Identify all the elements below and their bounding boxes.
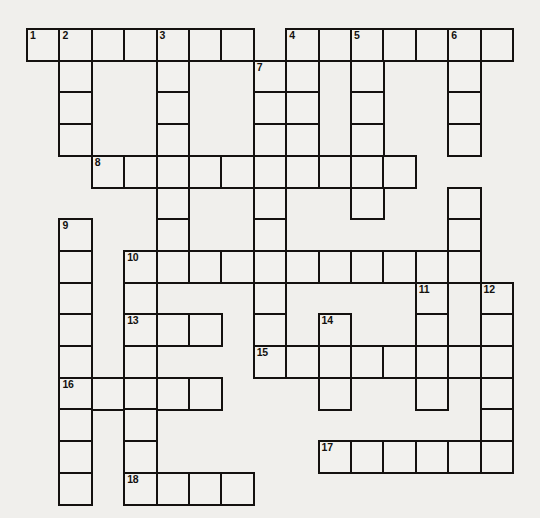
crossword-cell[interactable] <box>58 440 93 474</box>
crossword-cell[interactable]: 5 <box>350 28 385 62</box>
crossword-cell[interactable] <box>58 250 93 284</box>
crossword-cell[interactable] <box>285 60 320 94</box>
crossword-cell[interactable] <box>253 250 288 284</box>
crossword-cell[interactable]: 10 <box>123 250 158 284</box>
crossword-cell[interactable] <box>156 472 191 506</box>
crossword-cell[interactable]: 17 <box>318 440 353 474</box>
crossword-cell[interactable] <box>156 313 191 347</box>
crossword-cell[interactable] <box>156 218 191 252</box>
crossword-cell[interactable] <box>350 155 385 189</box>
crossword-cell[interactable] <box>156 60 191 94</box>
crossword-cell[interactable] <box>58 60 93 94</box>
crossword-cell[interactable] <box>123 408 158 442</box>
crossword-cell[interactable] <box>220 28 255 62</box>
crossword-cell[interactable] <box>123 282 158 316</box>
crossword-cell[interactable] <box>480 408 515 442</box>
crossword-cell[interactable] <box>123 155 158 189</box>
crossword-cell[interactable]: 3 <box>156 28 191 62</box>
crossword-cell[interactable] <box>447 91 482 125</box>
crossword-cell[interactable] <box>58 282 93 316</box>
crossword-cell[interactable] <box>318 155 353 189</box>
crossword-cell[interactable] <box>415 313 450 347</box>
crossword-cell[interactable] <box>58 91 93 125</box>
crossword-cell[interactable] <box>350 60 385 94</box>
crossword-cell[interactable] <box>220 250 255 284</box>
crossword-cell[interactable]: 18 <box>123 472 158 506</box>
crossword-cell[interactable] <box>188 250 223 284</box>
crossword-cell[interactable] <box>285 91 320 125</box>
crossword-cell[interactable] <box>285 155 320 189</box>
crossword-cell[interactable] <box>253 218 288 252</box>
crossword-cell[interactable] <box>480 313 515 347</box>
crossword-cell[interactable] <box>156 377 191 411</box>
crossword-cell[interactable] <box>480 345 515 379</box>
crossword-cell[interactable] <box>415 250 450 284</box>
crossword-cell[interactable] <box>382 440 417 474</box>
crossword-cell[interactable] <box>156 91 191 125</box>
crossword-cell[interactable] <box>91 377 126 411</box>
crossword-cell[interactable]: 2 <box>58 28 93 62</box>
crossword-cell[interactable]: 13 <box>123 313 158 347</box>
crossword-cell[interactable]: 9 <box>58 218 93 252</box>
crossword-cell[interactable] <box>447 250 482 284</box>
crossword-cell[interactable] <box>318 377 353 411</box>
crossword-cell[interactable] <box>58 123 93 157</box>
crossword-cell[interactable] <box>220 155 255 189</box>
crossword-cell[interactable] <box>447 123 482 157</box>
crossword-cell[interactable] <box>447 440 482 474</box>
crossword-cell[interactable]: 7 <box>253 60 288 94</box>
crossword-cell[interactable] <box>415 440 450 474</box>
crossword-cell[interactable] <box>253 282 288 316</box>
crossword-cell[interactable] <box>480 377 515 411</box>
crossword-cell[interactable] <box>350 250 385 284</box>
crossword-cell[interactable] <box>91 28 126 62</box>
crossword-cell[interactable] <box>382 28 417 62</box>
crossword-cell[interactable]: 14 <box>318 313 353 347</box>
crossword-cell[interactable]: 16 <box>58 377 93 411</box>
crossword-cell[interactable]: 6 <box>447 28 482 62</box>
crossword-cell[interactable] <box>350 187 385 221</box>
crossword-cell[interactable] <box>58 472 93 506</box>
crossword-cell[interactable] <box>123 440 158 474</box>
crossword-cell[interactable] <box>318 345 353 379</box>
crossword-cell[interactable] <box>188 155 223 189</box>
crossword-cell[interactable] <box>447 218 482 252</box>
crossword-cell[interactable]: 8 <box>91 155 126 189</box>
crossword-cell[interactable] <box>480 440 515 474</box>
crossword-cell[interactable] <box>123 345 158 379</box>
crossword-cell[interactable] <box>220 472 255 506</box>
crossword-cell[interactable] <box>253 91 288 125</box>
crossword-cell[interactable]: 12 <box>480 282 515 316</box>
crossword-cell[interactable] <box>188 28 223 62</box>
crossword-cell[interactable]: 1 <box>26 28 61 62</box>
crossword-cell[interactable] <box>415 377 450 411</box>
crossword-cell[interactable] <box>58 408 93 442</box>
crossword-cell[interactable]: 11 <box>415 282 450 316</box>
crossword-cell[interactable] <box>156 250 191 284</box>
crossword-cell[interactable]: 4 <box>285 28 320 62</box>
crossword-cell[interactable]: 15 <box>253 345 288 379</box>
crossword-cell[interactable] <box>382 345 417 379</box>
crossword-cell[interactable] <box>415 28 450 62</box>
crossword-cell[interactable] <box>415 345 450 379</box>
crossword-cell[interactable] <box>350 345 385 379</box>
crossword-cell[interactable] <box>156 155 191 189</box>
crossword-cell[interactable] <box>285 345 320 379</box>
crossword-cell[interactable] <box>253 187 288 221</box>
crossword-cell[interactable] <box>350 123 385 157</box>
crossword-cell[interactable] <box>123 377 158 411</box>
crossword-cell[interactable] <box>285 123 320 157</box>
crossword-cell[interactable] <box>480 28 515 62</box>
crossword-cell[interactable] <box>253 155 288 189</box>
crossword-cell[interactable] <box>156 123 191 157</box>
crossword-cell[interactable] <box>188 377 223 411</box>
crossword-cell[interactable] <box>58 345 93 379</box>
crossword-cell[interactable] <box>318 28 353 62</box>
crossword-cell[interactable] <box>123 28 158 62</box>
crossword-cell[interactable] <box>285 250 320 284</box>
crossword-cell[interactable] <box>188 313 223 347</box>
crossword-cell[interactable] <box>447 60 482 94</box>
crossword-cell[interactable] <box>350 91 385 125</box>
crossword-cell[interactable] <box>58 313 93 347</box>
crossword-cell[interactable] <box>382 250 417 284</box>
